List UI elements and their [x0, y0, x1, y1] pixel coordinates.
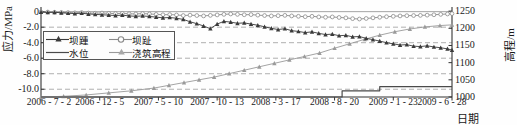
legend-row-2: 水位 浇筑高程 [46, 46, 172, 59]
legend-item-casting-elevation: 浇筑高程 [109, 46, 172, 59]
legend-marker-triangle-light-icon [109, 47, 132, 58]
legend-marker-circle-gray-icon [109, 34, 132, 45]
data-point [418, 13, 422, 17]
data-point [364, 17, 368, 21]
data-point [256, 13, 260, 17]
data-point [412, 14, 416, 18]
stress-elevation-chart: 应力/MPa 高程/m 日期 0-2.0-4.0-6.0-8.0-10.0 12… [0, 0, 517, 125]
data-point [358, 17, 362, 21]
data-point [398, 14, 402, 18]
data-point [439, 12, 443, 16]
series-水位 [41, 87, 452, 97]
legend-label-dam-toe: 坝趾 [132, 33, 152, 47]
data-point [385, 15, 389, 19]
data-point [391, 14, 395, 18]
legend-label-water-level: 水位 [69, 46, 89, 60]
data-point [317, 15, 321, 19]
data-point [425, 13, 429, 17]
data-point [324, 15, 328, 19]
data-point [249, 13, 253, 17]
data-point [378, 15, 382, 19]
data-point [263, 14, 267, 18]
data-point [202, 14, 206, 18]
data-point [269, 14, 273, 18]
data-point [283, 13, 287, 17]
data-point [242, 13, 246, 17]
data-point [290, 14, 294, 18]
chart-legend: 坝踵 坝趾 水位 [43, 31, 175, 60]
series-line [41, 87, 452, 97]
legend-label-casting-elevation: 浇筑高程 [132, 46, 171, 60]
legend-item-dam-toe: 坝趾 [109, 33, 172, 46]
data-point [181, 14, 185, 18]
data-point [446, 12, 450, 16]
legend-item-dam-heel: 坝踵 [46, 33, 109, 46]
data-point [351, 17, 355, 21]
data-point [297, 14, 301, 18]
data-point [188, 13, 192, 17]
legend-line-solid-icon [46, 47, 69, 58]
data-point [371, 16, 375, 20]
data-point [344, 16, 348, 20]
data-point [276, 14, 280, 18]
legend-label-dam-heel: 坝踵 [69, 33, 89, 47]
data-point [450, 12, 454, 16]
data-point [310, 14, 314, 18]
data-point [432, 13, 436, 17]
data-point [236, 12, 240, 16]
data-point [208, 13, 212, 17]
data-point [215, 13, 219, 17]
data-point [229, 12, 233, 16]
data-point [330, 15, 334, 19]
data-point [303, 15, 307, 19]
legend-item-water-level: 水位 [46, 46, 109, 59]
data-point [222, 12, 226, 16]
data-point [195, 14, 199, 18]
data-point [337, 16, 341, 20]
legend-marker-triangle-dark-icon [46, 34, 69, 45]
data-point [405, 14, 409, 18]
plot-area [0, 0, 517, 125]
legend-row-1: 坝踵 坝趾 [46, 33, 172, 46]
